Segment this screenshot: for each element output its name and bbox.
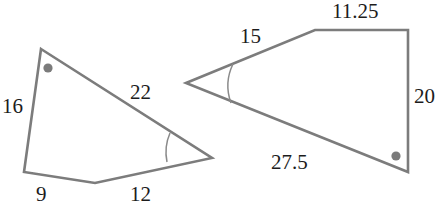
right-quadrilateral-label-20: 20 [414, 86, 435, 107]
left-quadrilateral-group [24, 49, 212, 183]
left-quadrilateral-angle-dot-marker [43, 63, 52, 72]
left-quadrilateral-label-22: 22 [130, 82, 151, 103]
geometry-figure: 16 22 9 12 15 11.25 20 27.5 [0, 0, 444, 208]
left-quadrilateral-label-16: 16 [2, 96, 23, 117]
right-quadrilateral-label-27-5: 27.5 [271, 152, 308, 173]
right-quadrilateral-label-11-25: 11.25 [332, 1, 378, 22]
right-quadrilateral-angle-dot-marker [391, 151, 400, 160]
right-quadrilateral-angle-arc [228, 64, 233, 103]
figure-canvas [0, 0, 444, 208]
left-quadrilateral-angle-arc [166, 133, 170, 162]
left-quadrilateral-label-12: 12 [130, 184, 151, 205]
left-quadrilateral-label-9: 9 [36, 184, 47, 205]
right-quadrilateral-label-15: 15 [240, 26, 261, 47]
